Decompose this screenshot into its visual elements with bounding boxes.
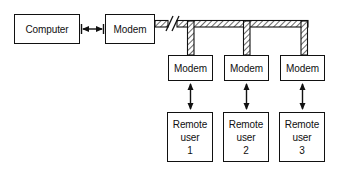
node-modem-main-label: Modem bbox=[114, 23, 147, 36]
drop-cable-3 bbox=[301, 21, 308, 55]
node-remote-user-3[interactable]: Remote user 3 bbox=[279, 112, 325, 162]
node-modem-2-label: Modem bbox=[230, 62, 263, 75]
node-computer[interactable]: Computer bbox=[14, 14, 80, 44]
node-remote-user-2-line2: user bbox=[236, 131, 255, 144]
node-remote-user-1[interactable]: Remote user 1 bbox=[167, 112, 213, 162]
node-remote-user-2-line3: 2 bbox=[243, 144, 248, 157]
computer-modem-link bbox=[82, 24, 104, 34]
node-remote-user-3-line1: Remote bbox=[285, 118, 319, 131]
node-modem-1-label: Modem bbox=[174, 62, 207, 75]
node-remote-user-1-line2: user bbox=[180, 131, 199, 144]
node-modem-1[interactable]: Modem bbox=[168, 55, 213, 81]
node-modem-3-label: Modem bbox=[286, 62, 319, 75]
trunk-cable-main bbox=[177, 21, 308, 28]
node-remote-user-3-line2: user bbox=[292, 131, 311, 144]
node-remote-user-3-line3: 3 bbox=[299, 144, 304, 157]
node-modem-main[interactable]: Modem bbox=[105, 14, 155, 44]
drop-cable-1 bbox=[188, 21, 195, 55]
node-modem-3[interactable]: Modem bbox=[280, 55, 325, 81]
node-computer-label: Computer bbox=[25, 23, 68, 36]
drop-cable-2 bbox=[244, 21, 251, 55]
network-diagram: Computer Modem Modem Modem Modem Remote … bbox=[0, 0, 340, 171]
node-remote-user-2-line1: Remote bbox=[229, 118, 263, 131]
node-remote-user-1-line3: 1 bbox=[187, 144, 192, 157]
node-modem-2[interactable]: Modem bbox=[224, 55, 269, 81]
node-remote-user-1-line1: Remote bbox=[173, 118, 207, 131]
node-remote-user-2[interactable]: Remote user 2 bbox=[223, 112, 269, 162]
trunk-cable-stub bbox=[155, 21, 168, 28]
